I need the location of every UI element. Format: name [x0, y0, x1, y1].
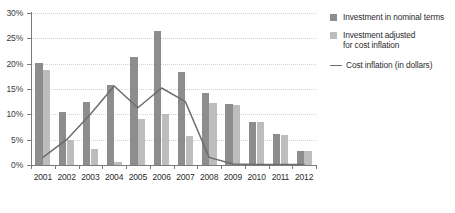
y-tick-label: 0% — [0, 160, 23, 170]
x-tick-mark — [292, 165, 293, 169]
x-tick-mark — [316, 165, 317, 169]
x-tick-label: 2007 — [174, 172, 198, 182]
x-tick-label: 2011 — [269, 172, 293, 182]
x-tick-mark — [79, 165, 80, 169]
x-tick-mark — [31, 165, 32, 169]
y-tick-label: 15% — [0, 84, 23, 94]
legend-label-adjusted: Investment adjusted for cost inflation — [343, 30, 415, 51]
x-tick-mark — [55, 165, 56, 169]
y-tick-label: 30% — [0, 8, 23, 18]
x-tick-label: 2002 — [55, 172, 79, 182]
legend-item-cost-inflation: Cost inflation (in dollars) — [330, 60, 455, 71]
source-caption — [3, 203, 203, 212]
y-tick-label: 10% — [0, 109, 23, 119]
legend-swatch-light-square-icon — [330, 32, 337, 39]
cost-inflation-line-svg — [31, 13, 316, 165]
y-tick-label: 25% — [0, 33, 23, 43]
cost-inflation-line-group — [31, 13, 316, 165]
x-tick-label: 2012 — [292, 172, 316, 182]
legend-swatch-dark-square-icon — [330, 14, 337, 21]
chart-plot-area: 0%5%10%15%20%25%30% 20012002200320042005… — [0, 0, 330, 200]
x-tick-label: 2004 — [102, 172, 126, 182]
cost-inflation-polyline — [43, 86, 304, 165]
x-tick-label: 2001 — [31, 172, 55, 182]
x-tick-label: 2010 — [245, 172, 269, 182]
legend-label-cost-inflation: Cost inflation (in dollars) — [346, 60, 432, 71]
x-tick-label: 2003 — [79, 172, 103, 182]
legend-line-marker-icon — [330, 65, 342, 66]
legend-label-nominal: Investment in nominal terms — [343, 12, 444, 23]
y-tick-label: 5% — [0, 135, 23, 145]
x-tick-label: 2005 — [126, 172, 150, 182]
legend-label-adjusted-line2: for cost inflation — [343, 40, 415, 51]
y-tick-label: 20% — [0, 59, 23, 69]
x-tick-label: 2009 — [221, 172, 245, 182]
legend-label-adjusted-line1: Investment adjusted — [343, 30, 415, 41]
x-tick-mark — [197, 165, 198, 169]
x-tick-mark — [174, 165, 175, 169]
chart-root: 0%5%10%15%20%25%30% 20012002200320042005… — [0, 0, 455, 213]
x-tick-mark — [150, 165, 151, 169]
chart-legend: Investment in nominal terms Investment a… — [330, 12, 455, 77]
x-tick-label: 2006 — [150, 172, 174, 182]
x-tick-mark — [102, 165, 103, 169]
x-tick-label: 2008 — [197, 172, 221, 182]
x-tick-mark — [269, 165, 270, 169]
x-tick-mark — [245, 165, 246, 169]
x-tick-mark — [221, 165, 222, 169]
legend-item-nominal: Investment in nominal terms — [330, 12, 455, 23]
legend-item-adjusted: Investment adjusted for cost inflation — [330, 30, 455, 51]
x-tick-mark — [126, 165, 127, 169]
